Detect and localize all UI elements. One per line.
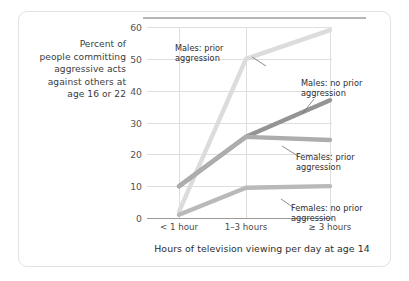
leader-line	[252, 57, 266, 66]
x-axis-caption: Hours of television viewing per day at a…	[147, 243, 377, 254]
annotation-line: aggression	[296, 162, 376, 172]
annotation-females-no-prior: Females: no prioraggression	[291, 203, 383, 224]
chart-screenshot: Percent ofpeople committingaggressive ac…	[0, 0, 409, 281]
annotation-line: Males: no prior	[301, 78, 383, 88]
annotation-line: Females: prior	[296, 152, 376, 162]
annotation-males-prior: Males: prioraggression	[175, 43, 253, 64]
annotation-line: aggression	[301, 88, 383, 98]
annotation-line: Males: prior	[175, 43, 253, 53]
leader-line	[303, 99, 314, 113]
annotation-line: Females: no prior	[291, 203, 383, 213]
annotation-line: aggression	[291, 213, 383, 223]
annotation-females-prior: Females: prioraggression	[296, 152, 376, 173]
annotation-males-no-prior: Males: no prioraggression	[301, 78, 383, 99]
annotation-line: aggression	[175, 53, 253, 63]
